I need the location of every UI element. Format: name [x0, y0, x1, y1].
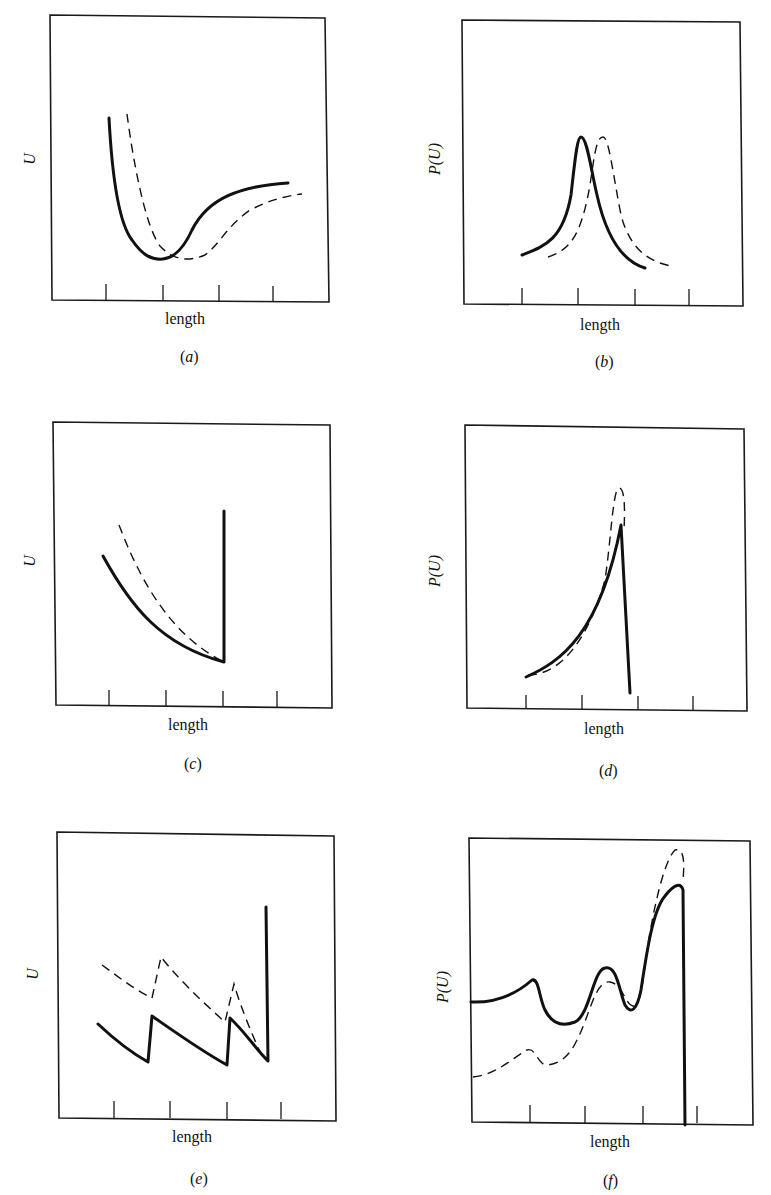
y-axis-label: U	[21, 555, 39, 567]
x-axis-label: length	[580, 316, 620, 334]
panel-c: U length (c)	[0, 400, 385, 790]
panel-caption: (e)	[190, 1170, 208, 1188]
series-solid	[522, 137, 645, 268]
panel-b: P(U) length (b)	[385, 0, 771, 390]
y-axis-label: P(U)	[426, 143, 444, 175]
panel-f: P(U) length (f)	[385, 800, 771, 1195]
y-axis-label: P(U)	[434, 971, 452, 1003]
series-dashed	[127, 114, 302, 259]
x-axis-label: length	[172, 1128, 212, 1146]
panel-caption: (b)	[595, 353, 614, 371]
series-dashed	[119, 525, 224, 662]
series-solid	[98, 907, 268, 1065]
panel-caption: (f)	[603, 1172, 618, 1190]
plot-a	[0, 0, 385, 390]
x-axis-label: length	[590, 1133, 630, 1151]
series-solid	[103, 511, 224, 662]
series-solid	[109, 118, 288, 259]
series-dashed	[548, 137, 671, 266]
x-axis-label: length	[168, 716, 208, 734]
series-dashed	[528, 488, 624, 675]
panel-caption: (a)	[180, 348, 199, 366]
series-dashed	[102, 957, 262, 1056]
series-solid	[471, 885, 685, 1125]
y-axis-label: U	[21, 153, 39, 165]
panel-e: U length (e)	[0, 800, 385, 1195]
panel-caption: (c)	[184, 755, 202, 773]
panel-d: P(U) length (d)	[385, 400, 771, 790]
plot-d	[385, 400, 771, 790]
plot-b	[385, 0, 771, 390]
series-dashed	[473, 850, 684, 1077]
panel-a: U length (a)	[0, 0, 385, 390]
x-axis-label: length	[165, 310, 205, 328]
y-axis-label: P(U)	[426, 555, 444, 587]
panel-caption: (d)	[599, 762, 618, 780]
series-solid	[526, 525, 630, 693]
x-axis-label: length	[584, 720, 624, 738]
y-axis-label: U	[24, 968, 42, 980]
